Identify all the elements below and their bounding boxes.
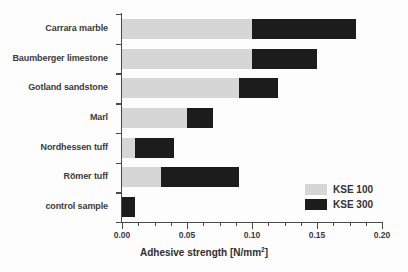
- chart-legend: KSE 100KSE 300: [305, 182, 373, 212]
- x-tick-label: 0.10: [232, 230, 272, 240]
- legend-item: KSE 300: [305, 197, 373, 211]
- bar-row: [122, 44, 382, 74]
- y-axis-label: Carrara marble: [0, 23, 108, 33]
- x-tick-minor: [285, 223, 286, 226]
- bar-segment-kse-100: [122, 167, 161, 187]
- x-tick-minor: [268, 223, 269, 226]
- bar-row: [122, 14, 382, 44]
- bar-segment-kse-100: [122, 49, 252, 69]
- stacked-bar: [122, 108, 382, 128]
- x-tick-label: 0.20: [362, 230, 402, 240]
- legend-item: KSE 100: [305, 182, 373, 196]
- bar-row: [122, 103, 382, 133]
- stacked-bar: [122, 49, 382, 69]
- x-tick-major: [317, 223, 318, 229]
- stacked-bar: [122, 78, 382, 98]
- legend-label: KSE 300: [333, 199, 373, 210]
- legend-label: KSE 100: [333, 184, 373, 195]
- x-tick-label: 0.05: [167, 230, 207, 240]
- x-tick-minor: [350, 223, 351, 226]
- bar-segment-kse-300: [122, 197, 135, 217]
- x-tick-label: 0.00: [102, 230, 142, 240]
- x-tick-minor: [220, 223, 221, 226]
- adhesive-strength-bar-chart: Carrara marbleBaumberger limestoneGotlan…: [0, 0, 408, 272]
- y-axis-label: Marl: [0, 112, 108, 122]
- x-tick-major: [382, 223, 383, 229]
- x-tick-minor: [366, 223, 367, 226]
- bar-segment-kse-300: [252, 49, 317, 69]
- x-tick-label: 0.15: [297, 230, 337, 240]
- bar-segment-kse-300: [161, 167, 239, 187]
- stacked-bar: [122, 19, 382, 39]
- bar-segment-kse-300: [239, 78, 278, 98]
- bar-segment-kse-100: [122, 19, 252, 39]
- y-axis-label: Baumberger limestone: [0, 53, 108, 63]
- x-tick-major: [252, 223, 253, 229]
- x-tick-minor: [171, 223, 172, 226]
- y-axis-label: Gotland sandstone: [0, 82, 108, 92]
- legend-swatch: [305, 184, 327, 195]
- x-tick-major: [122, 223, 123, 229]
- bar-segment-kse-300: [135, 138, 174, 158]
- x-tick-minor: [301, 223, 302, 226]
- bar-row: [122, 73, 382, 103]
- y-axis-label: Nordhessen tuff: [0, 142, 108, 152]
- x-tick-minor: [155, 223, 156, 226]
- x-axis-title-bracket: ]: [265, 247, 268, 258]
- x-axis-title-main: Adhesive strength [N/mm: [140, 247, 261, 258]
- y-axis-label: control sample: [0, 201, 108, 211]
- x-tick-minor: [138, 223, 139, 226]
- y-axis-category-labels: Carrara marbleBaumberger limestoneGotlan…: [0, 14, 116, 222]
- bar-segment-kse-100: [122, 138, 135, 158]
- bar-segment-kse-100: [122, 78, 239, 98]
- bar-row: [122, 133, 382, 163]
- x-tick-minor: [236, 223, 237, 226]
- bar-segment-kse-300: [187, 108, 213, 128]
- bar-segment-kse-300: [252, 19, 356, 39]
- legend-swatch: [305, 199, 327, 210]
- bar-segment-kse-100: [122, 108, 187, 128]
- x-tick-minor: [333, 223, 334, 226]
- x-axis-title: Adhesive strength [N/mm2]: [0, 246, 408, 258]
- x-tick-major: [187, 223, 188, 229]
- x-tick-minor: [203, 223, 204, 226]
- stacked-bar: [122, 138, 382, 158]
- y-axis-label: Römer tuff: [0, 171, 108, 181]
